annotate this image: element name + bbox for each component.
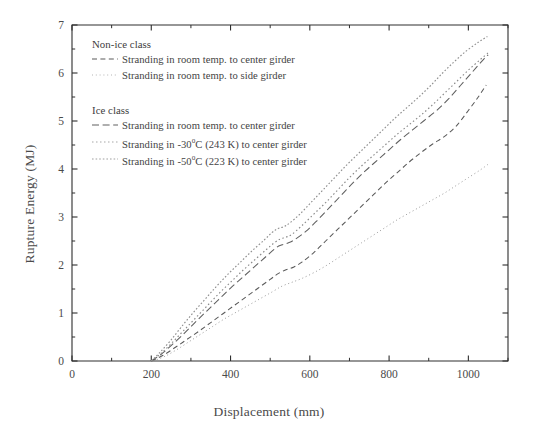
y-tick-label: 2 <box>46 259 64 271</box>
data-series-layer <box>151 37 488 361</box>
legend-label-ice-m50-center: Stranding in -50oC (223 K) to center gir… <box>122 154 307 167</box>
series-line-ice-m50-center <box>151 37 487 361</box>
x-tick-label: 400 <box>222 368 239 380</box>
x-axis-title: Displacement (mm) <box>0 404 538 420</box>
y-tick-label: 5 <box>46 115 64 127</box>
legend-label-ice-room-center: Stranding in room temp. to center girder <box>122 120 295 131</box>
y-tick-label: 4 <box>46 163 64 175</box>
series-line-noniced-side <box>153 164 488 361</box>
legend-label-noniced-center: Stranding in room temp. to center girder <box>122 54 295 65</box>
x-tick-label: 800 <box>380 368 397 380</box>
x-tick-label: 600 <box>301 368 318 380</box>
legend-label-ice-m30-center: Stranding in -30oC (243 K) to center gir… <box>122 137 307 150</box>
legend-m30-post: C (243 K) to center girder <box>195 139 307 150</box>
series-line-ice-m30-center <box>151 53 488 361</box>
legend-m50-post: C (223 K) to center girder <box>195 156 307 167</box>
legend-label-noniced-side: Stranding in room temp. to side girder <box>122 70 286 81</box>
y-tick-label: 1 <box>46 307 64 319</box>
legend-group-header-non-ice: Non-ice class <box>92 38 151 50</box>
y-tick-label: 0 <box>46 355 64 367</box>
x-tick-label: 200 <box>143 368 160 380</box>
legend-m30-pre: Stranding in -30 <box>122 139 192 150</box>
legend-m50-pre: Stranding in -50 <box>122 156 192 167</box>
x-tick-label: 0 <box>69 368 75 380</box>
x-tick-label: 1000 <box>457 368 480 380</box>
y-axis-title: Rupture Energy (MJ) <box>22 104 38 304</box>
legend-group-header-ice: Ice class <box>92 104 129 116</box>
y-tick-label: 6 <box>46 67 64 79</box>
y-tick-label: 7 <box>46 19 64 31</box>
y-tick-label: 3 <box>46 211 64 223</box>
chart-figure: Displacement (mm) Rupture Energy (MJ) 02… <box>0 0 538 444</box>
